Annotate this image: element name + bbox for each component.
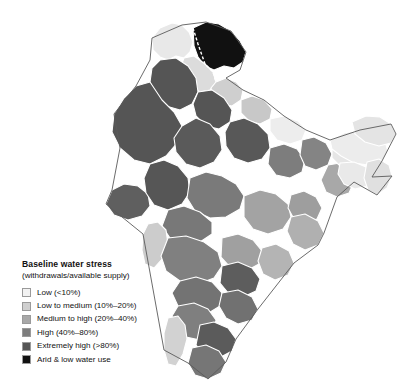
legend-title: Baseline water stress [22, 258, 187, 270]
legend-label-low: Low (<10%) [37, 288, 80, 298]
legend-swatch-low [22, 288, 31, 297]
legend-swatch-extremely-high [22, 342, 31, 351]
legend: Baseline water stress (withdrawals/avail… [22, 258, 187, 366]
legend-item-arid: Arid & low water use [22, 353, 187, 366]
legend-label-arid: Arid & low water use [37, 355, 111, 365]
region-nepal-border-terai [270, 116, 306, 144]
legend-subtitle: (withdrawals/available supply) [22, 270, 187, 282]
legend-item-low-to-medium: Low to medium (10%–20%) [22, 299, 187, 312]
legend-item-extremely-high: Extremely high (>80%) [22, 340, 187, 353]
legend-swatch-medium-to-high [22, 315, 31, 324]
region-gujarat-sabarmati [144, 160, 190, 210]
water-stress-map-figure: Baseline water stress (withdrawals/avail… [0, 0, 420, 392]
legend-label-extremely-high: Extremely high (>80%) [37, 341, 119, 351]
legend-label-medium-to-high: Medium to high (20%–40%) [37, 314, 137, 324]
legend-label-high: High (40%–80%) [37, 328, 98, 338]
region-middle-ganga [268, 144, 305, 178]
legend-item-medium-to-high: Medium to high (20%–40%) [22, 313, 187, 326]
legend-swatch-high [22, 328, 31, 337]
region-pennar-basin [219, 290, 258, 324]
legend-item-low: Low (<10%) [22, 286, 187, 299]
region-chhattisgarh-mahanadi [244, 190, 291, 234]
region-andhra-coastal [258, 244, 294, 280]
region-kutch-saurashtra [106, 184, 150, 220]
legend-swatch-arid [22, 355, 31, 364]
legend-item-high: High (40%–80%) [22, 326, 187, 339]
region-bihar-gandak [300, 137, 332, 170]
legend-label-low-to-medium: Low to medium (10%–20%) [37, 301, 136, 311]
region-upper-ganga [225, 118, 270, 163]
region-kashmir-valley [152, 23, 193, 60]
legend-swatch-low-to-medium [22, 302, 31, 311]
